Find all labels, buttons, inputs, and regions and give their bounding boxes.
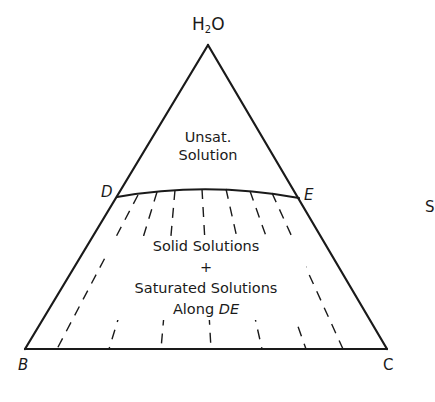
edge-text-fragment: S (425, 200, 435, 215)
vertex-label-b: B (18, 358, 28, 373)
region-unsaturated-solution: Unsat. Solution (168, 128, 248, 164)
region-lower-line4: Along DE (171, 299, 241, 320)
region-upper-line2: Solution (168, 146, 248, 164)
vertex-label-water: H2O (192, 16, 225, 33)
region-lower-line4-de: DE (219, 301, 239, 317)
region-lower-line1: Solid Solutions (151, 236, 262, 257)
region-lower-line3: Saturated Solutions (133, 278, 280, 299)
region-lower-plus: + (198, 257, 214, 278)
vertex-label-c: C (383, 358, 393, 373)
point-label-e: E (304, 188, 313, 203)
region-solid-plus-saturated: Solid Solutions + Saturated Solutions Al… (106, 236, 306, 320)
water-o: O (211, 14, 224, 34)
region-lower-line4-prefix: Along (173, 301, 219, 317)
point-label-d: D (101, 185, 113, 200)
region-upper-line1: Unsat. (168, 128, 248, 146)
water-h: H (192, 14, 205, 34)
